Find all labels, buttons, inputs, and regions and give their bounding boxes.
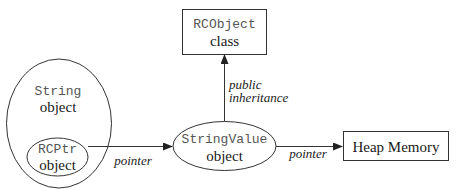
edge-rcptr-to-stringvalue: pointer xyxy=(88,147,172,169)
stringvalue-name: StringValue xyxy=(182,132,268,147)
rcptr-name: RCPtr xyxy=(38,142,77,157)
string-name: String xyxy=(35,84,82,99)
rcobject-name: RCObject xyxy=(193,17,255,32)
string-kind: object xyxy=(40,99,77,115)
pointer-label-1: pointer xyxy=(113,153,152,168)
rcptr-object-node: RCPtr object xyxy=(27,138,88,176)
heap-memory-node: Heap Memory xyxy=(344,132,449,161)
heap-memory-label: Heap Memory xyxy=(352,139,440,155)
inheritance-label-line2: inheritance xyxy=(229,90,288,105)
pointer-label-2: pointer xyxy=(288,146,327,161)
edge-inheritance: public inheritance xyxy=(225,55,289,121)
rcobject-class-node: RCObject class xyxy=(183,10,267,55)
class-relationship-diagram: RCObject class String object RCPtr objec… xyxy=(0,0,461,190)
rcptr-kind: object xyxy=(39,157,76,173)
rcobject-kind: class xyxy=(210,33,239,49)
stringvalue-kind: object xyxy=(206,148,243,164)
edge-stringvalue-to-heap: pointer xyxy=(276,146,342,161)
stringvalue-object-node: StringValue object xyxy=(173,122,276,171)
